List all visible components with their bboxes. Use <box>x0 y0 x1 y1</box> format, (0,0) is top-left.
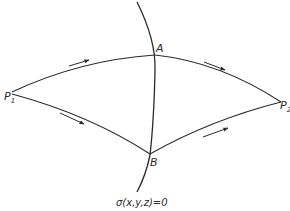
arrow-b-p2-icon <box>203 128 228 137</box>
label-p1: P1 <box>4 90 15 105</box>
lower-path-p1-b <box>12 94 150 154</box>
arrow-p1-b-icon <box>60 113 84 124</box>
arrow-p1-a-icon <box>69 60 89 66</box>
upper-path-a-p2 <box>155 55 281 102</box>
lower-path-b-p2 <box>150 102 281 154</box>
upper-path-p1-a <box>12 55 155 92</box>
label-a: A <box>155 42 164 55</box>
refraction-path-diagram: P1 P2 A B σ(x,y,z)=0 <box>0 0 290 211</box>
surface-label: σ(x,y,z)=0 <box>116 197 168 208</box>
label-b: B <box>150 156 158 169</box>
label-p2: P2 <box>280 99 290 114</box>
